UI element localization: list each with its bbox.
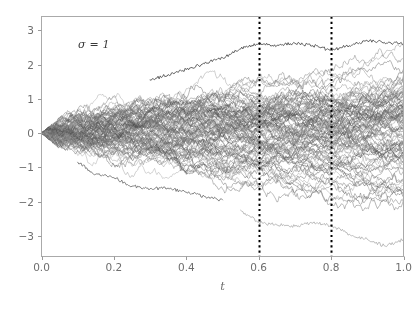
x-tick-label: 0.8 bbox=[323, 261, 340, 273]
y-tick-label: 3 bbox=[12, 24, 34, 36]
x-tick-label: 0.0 bbox=[33, 261, 50, 273]
brownian-paths-plot bbox=[0, 0, 417, 311]
x-tick-label: 0.2 bbox=[106, 261, 123, 273]
y-tick-label: −2 bbox=[12, 196, 34, 208]
y-tick-label: −1 bbox=[12, 161, 34, 173]
x-tick-label: 1.0 bbox=[395, 261, 412, 273]
y-tick-label: 2 bbox=[12, 59, 34, 71]
figure-brownian-paths: σ = 1 0.00.20.40.60.81.0 3210−1−2−3 t bbox=[0, 0, 417, 311]
x-tick-label: 0.4 bbox=[178, 261, 195, 273]
x-axis-label: t bbox=[220, 279, 225, 293]
x-tick-label: 0.6 bbox=[250, 261, 267, 273]
y-tick-label: 0 bbox=[12, 127, 34, 139]
y-tick-label: 1 bbox=[12, 93, 34, 105]
y-tick-label: −3 bbox=[12, 230, 34, 242]
